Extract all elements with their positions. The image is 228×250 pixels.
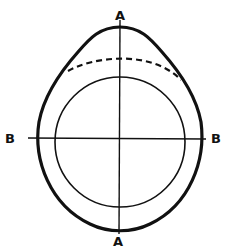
- cross-section-figure: [0, 0, 228, 250]
- label-right-b: B: [211, 132, 221, 145]
- label-bottom-a: A: [113, 235, 123, 248]
- label-top-a: A: [115, 9, 125, 22]
- diagram-canvas: A A B B: [0, 0, 228, 250]
- label-left-b: B: [5, 132, 15, 145]
- axis-a-a: [119, 20, 120, 234]
